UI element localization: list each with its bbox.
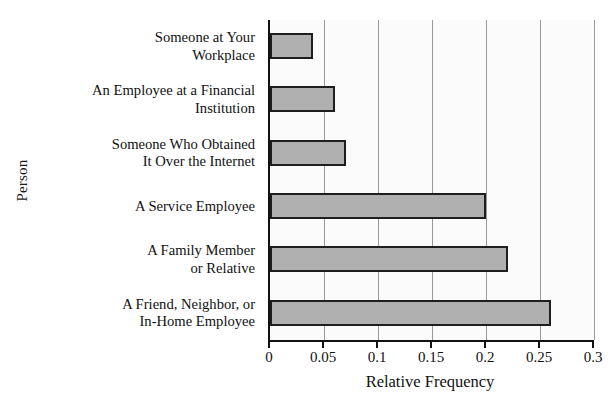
bar-slot (270, 73, 594, 126)
x-axis-tick (592, 340, 594, 348)
category-label: An Employee at a Financial Institution (92, 82, 262, 117)
bar[interactable] (270, 33, 313, 59)
gridline (594, 20, 595, 340)
category-row: A Friend, Neighbor, or In-Home Employee (28, 287, 262, 340)
bar-slot (270, 20, 594, 73)
bar[interactable] (270, 193, 486, 219)
category-label: A Friend, Neighbor, or In-Home Employee (122, 296, 262, 331)
x-axis-tick (538, 340, 540, 348)
x-axis-tick (430, 340, 432, 348)
category-row: Someone Who Obtained It Over the Interne… (28, 127, 262, 180)
category-row: A Service Employee (28, 180, 262, 233)
bar-slot (270, 127, 594, 180)
x-axis-tick-label: 0.2 (476, 349, 495, 366)
bar-slot (270, 287, 594, 340)
category-row: An Employee at a Financial Institution (28, 73, 262, 126)
category-row: Someone at Your Workplace (28, 20, 262, 73)
bar[interactable] (270, 140, 346, 166)
category-label: Someone Who Obtained It Over the Interne… (112, 136, 262, 171)
bar[interactable] (270, 246, 508, 272)
x-axis-tick-label: 0.1 (368, 349, 387, 366)
category-label: A Service Employee (135, 198, 262, 216)
bar-chart: Person Someone at Your Workplace An Empl… (0, 0, 608, 405)
x-axis-tick-label: 0.15 (418, 349, 444, 366)
category-label-column: Someone at Your Workplace An Employee at… (28, 20, 262, 340)
bar[interactable] (270, 300, 551, 326)
x-axis-tick (376, 340, 378, 348)
category-label: A Family Member or Relative (147, 242, 262, 277)
x-axis-tick-label: 0.05 (310, 349, 336, 366)
x-axis-tick-label: 0.25 (526, 349, 552, 366)
x-axis-tick-label: 0 (265, 349, 273, 366)
bar-slot (270, 180, 594, 233)
x-axis-tick-label: 0.3 (584, 349, 603, 366)
bar[interactable] (270, 86, 335, 112)
category-row: A Family Member or Relative (28, 233, 262, 286)
category-label: Someone at Your Workplace (155, 29, 262, 64)
x-axis-tick (268, 340, 270, 348)
x-axis-tick (322, 340, 324, 348)
x-axis-title: Relative Frequency (268, 372, 592, 392)
plot-area (268, 20, 594, 340)
bar-slot (270, 233, 594, 286)
x-axis-tick (484, 340, 486, 348)
